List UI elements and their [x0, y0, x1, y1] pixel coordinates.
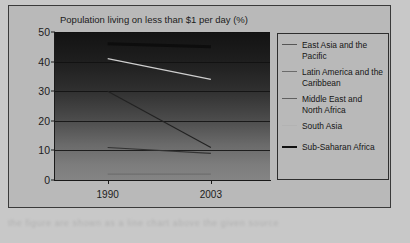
- chart-legend: East Asia and the PacificLatin America a…: [277, 33, 389, 180]
- chart-figure: Population living on less than $1 per da…: [8, 5, 391, 208]
- y-tick-label: 40: [38, 56, 50, 68]
- x-tick-label: 2003: [200, 189, 222, 200]
- x-tick-label: 1990: [97, 189, 119, 200]
- legend-swatch-icon: [282, 142, 297, 151]
- y-tick-label: 50: [38, 26, 50, 38]
- legend-swatch-icon: [282, 94, 297, 103]
- legend-item[interactable]: East Asia and the Pacific: [282, 40, 384, 61]
- screenshot-root: Population living on less than $1 per da…: [0, 0, 410, 243]
- scan-artifact-text: the figure are shown as a line chart abo…: [8, 218, 402, 234]
- legend-label: East Asia and the Pacific: [302, 40, 384, 61]
- legend-item[interactable]: South Asia: [282, 121, 384, 132]
- series-line: [108, 59, 211, 80]
- y-tick-label: 20: [38, 115, 50, 127]
- legend-item[interactable]: Sub-Saharan Africa: [282, 142, 384, 153]
- legend-label: Latin America and the Caribbean: [302, 67, 384, 88]
- legend-label: Sub-Saharan Africa: [302, 142, 375, 153]
- chart-title: Population living on less than $1 per da…: [9, 14, 299, 25]
- legend-label: Middle East and North Africa: [302, 94, 384, 115]
- x-axis-line: [54, 180, 271, 181]
- legend-item[interactable]: Latin America and the Caribbean: [282, 67, 384, 88]
- plot-area: 01020304050 19902003: [55, 32, 270, 180]
- y-tick-label: 10: [38, 144, 50, 156]
- legend-swatch-icon: [282, 121, 297, 130]
- legend-item[interactable]: Middle East and North Africa: [282, 94, 384, 115]
- series-lines: [55, 32, 270, 180]
- legend-swatch-icon: [282, 67, 297, 76]
- x-tick-mark: [108, 180, 109, 184]
- x-tick-mark: [211, 180, 212, 184]
- series-line: [108, 44, 211, 47]
- legend-label: South Asia: [302, 121, 342, 132]
- series-line: [108, 147, 211, 153]
- y-tick-label: 0: [44, 174, 50, 186]
- series-line: [108, 91, 211, 147]
- legend-swatch-icon: [282, 40, 297, 49]
- y-tick-label: 30: [38, 85, 50, 97]
